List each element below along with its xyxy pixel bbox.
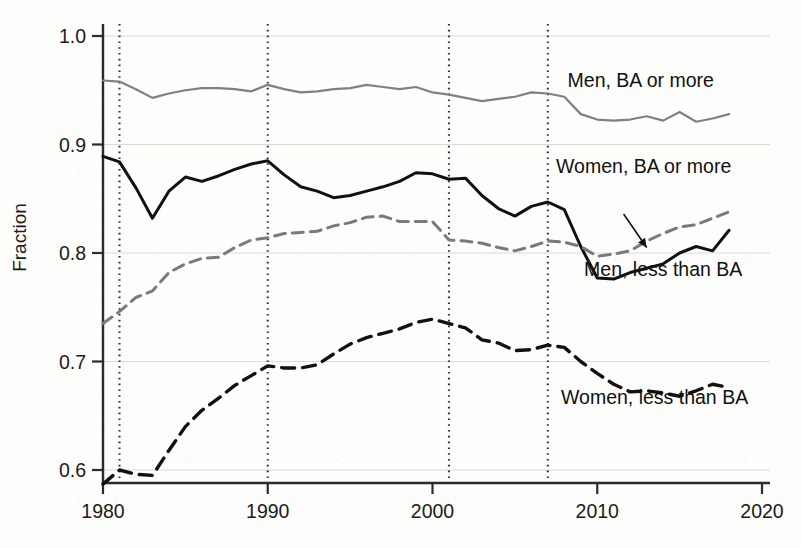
x-tick-label-2010: 2010: [576, 500, 620, 522]
series-label-women-ba-or-more: Women, BA or more: [556, 155, 731, 177]
x-tick-label-2020: 2020: [740, 500, 784, 522]
y-tick-label-0.8: 0.8: [59, 242, 86, 264]
data-series-group: [103, 80, 729, 484]
y-tick-label-0.9: 0.9: [59, 134, 86, 156]
x-tick-label-2000: 2000: [411, 500, 455, 522]
series-label-men-less-than-ba: Men, less than BA: [584, 258, 742, 280]
text-labels: 0.60.70.80.91.019801990200020102020Fract…: [9, 25, 784, 522]
y-tick-label-0.7: 0.7: [59, 351, 86, 373]
y-tick-label-0.6: 0.6: [59, 459, 86, 481]
series-label-women-less-than-ba: Women, less than BA: [561, 386, 748, 408]
annotation-arrow: [624, 214, 647, 248]
chart-figure: 0.60.70.80.91.019801990200020102020Fract…: [0, 0, 801, 548]
y-axis-title: Fraction: [9, 203, 30, 272]
series-label-men-ba-or-more: Men, BA or more: [568, 69, 714, 91]
x-tick-label-1980: 1980: [81, 500, 125, 522]
y-tick-label-1.0: 1.0: [59, 25, 86, 47]
x-tick-label-1990: 1990: [246, 500, 290, 522]
line-chart-canvas: 0.60.70.80.91.019801990200020102020Fract…: [0, 0, 801, 548]
